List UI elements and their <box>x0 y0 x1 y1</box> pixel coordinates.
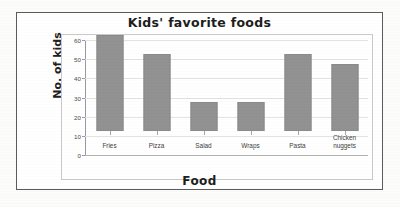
bar-group: Pizza <box>133 40 180 155</box>
plot-area: 0102030405060 FriesPizzaSaladWrapsPastaC… <box>61 34 373 180</box>
bars-layer: FriesPizzaSaladWrapsPastaChicken nuggets <box>86 40 368 155</box>
x-tick-label: Salad <box>181 142 227 150</box>
bar-group: Fries <box>86 40 133 155</box>
x-tick-label: Pasta <box>275 142 321 150</box>
y-tick-label: 0 <box>62 152 81 159</box>
x-tick-label: Wraps <box>228 142 274 150</box>
x-tick-label: Pizza <box>134 142 180 150</box>
y-tick-label: 30 <box>62 94 81 101</box>
y-tick-label: 60 <box>62 37 81 44</box>
chart-frame: Kids' favorite foods No. of kids 0102030… <box>16 12 383 190</box>
y-tick-mark <box>82 40 85 41</box>
bar-group: Salad <box>180 40 227 155</box>
y-tick-mark <box>82 136 85 137</box>
x-tick-mark <box>204 131 205 135</box>
bar <box>284 54 311 131</box>
y-tick-mark <box>82 59 85 60</box>
bar-group: Pasta <box>274 40 321 155</box>
bar-group: Chicken nuggets <box>321 40 368 155</box>
y-tick-mark <box>82 117 85 118</box>
bar <box>190 102 217 131</box>
x-axis-title: Food <box>17 174 382 188</box>
scanned-page: Kids' favorite foods No. of kids 0102030… <box>0 0 400 207</box>
bar <box>143 54 170 131</box>
x-tick-label: Fries <box>87 142 133 150</box>
chart-title: Kids' favorite foods <box>17 15 382 30</box>
y-tick-label: 40 <box>62 75 81 82</box>
y-tick-mark <box>82 155 85 156</box>
bar <box>331 64 358 131</box>
bar-group: Wraps <box>227 40 274 155</box>
x-tick-label: Chicken nuggets <box>322 134 368 150</box>
x-tick-mark <box>251 131 252 135</box>
bar <box>96 35 123 131</box>
y-tick-mark <box>82 78 85 79</box>
y-tick-label: 50 <box>62 56 81 63</box>
bar <box>237 102 264 131</box>
y-tick-mark <box>82 98 85 99</box>
y-tick-label: 20 <box>62 113 81 120</box>
x-tick-mark <box>298 131 299 135</box>
gridline <box>85 155 368 156</box>
x-tick-mark <box>157 131 158 135</box>
y-tick-label: 10 <box>62 132 81 139</box>
x-tick-mark <box>110 131 111 135</box>
